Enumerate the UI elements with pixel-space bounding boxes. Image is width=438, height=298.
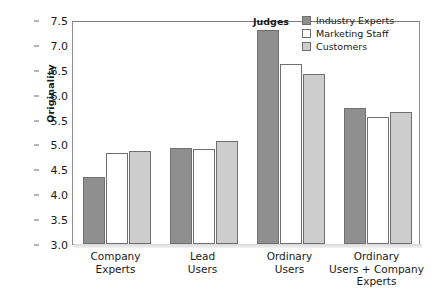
y-tick-label: 4.5	[38, 165, 68, 176]
bar	[344, 108, 366, 244]
y-tick-label: 5.0	[38, 140, 68, 151]
bar-chart: Originality 7.57.06.56.05.55.04.54.03.53…	[0, 0, 438, 298]
legend-title: Judges	[253, 15, 289, 28]
legend-swatch	[302, 16, 311, 25]
y-tick-mark	[34, 120, 39, 121]
y-tick-mark	[34, 95, 39, 96]
y-tick-label: 7.5	[38, 16, 68, 27]
y-tick-mark	[34, 245, 39, 246]
bar	[129, 151, 151, 244]
bar-group	[247, 22, 334, 244]
y-tick-mark	[34, 21, 39, 22]
bar-group	[73, 22, 160, 244]
bar	[390, 112, 412, 244]
bar-group	[160, 22, 247, 244]
y-tick-label: 7.0	[38, 40, 68, 51]
bar	[216, 141, 238, 244]
y-tick-mark	[34, 170, 39, 171]
legend-item: Industry Experts	[302, 14, 394, 27]
plot-area	[72, 21, 420, 245]
legend-item: Customers	[302, 40, 394, 53]
bar	[106, 153, 128, 244]
y-tick-mark	[34, 45, 39, 46]
legend: Judges Industry ExpertsMarketing StaffCu…	[253, 14, 394, 53]
y-tick-mark	[34, 145, 39, 146]
bar	[83, 177, 105, 244]
bar	[257, 30, 279, 244]
y-tick-label: 4.0	[38, 190, 68, 201]
y-tick-label: 3.5	[38, 215, 68, 226]
legend-label: Marketing Staff	[316, 27, 389, 40]
y-tick-mark	[34, 70, 39, 71]
y-tick-label: 3.0	[38, 240, 68, 251]
y-tick-label: 6.5	[38, 65, 68, 76]
x-axis-label: OrdinaryUsers + CompanyExperts	[321, 250, 432, 288]
legend-swatch	[302, 42, 311, 51]
legend-item: Marketing Staff	[302, 27, 394, 40]
legend-label: Customers	[316, 40, 367, 53]
bar	[193, 149, 215, 244]
bar	[367, 117, 389, 244]
bar-group	[334, 22, 421, 244]
legend-swatch	[302, 29, 311, 38]
bar	[303, 74, 325, 244]
y-tick-mark	[34, 220, 39, 221]
bar	[170, 148, 192, 244]
y-tick-label: 5.5	[38, 115, 68, 126]
y-tick-mark	[34, 195, 39, 196]
y-tick-label: 6.0	[38, 90, 68, 101]
legend-label: Industry Experts	[316, 14, 394, 27]
bar	[280, 64, 302, 244]
